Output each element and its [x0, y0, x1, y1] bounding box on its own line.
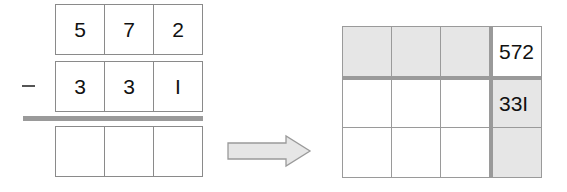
result-digit-ones [153, 126, 203, 177]
grid-divider-vertical [489, 26, 493, 178]
subtrahend-digit-tens: 3 [104, 61, 154, 112]
minuend-digit-tens: 7 [104, 4, 154, 55]
subtrahend-label-cell: 33I [492, 79, 542, 128]
grid-cell-r1c2 [391, 26, 441, 77]
grid-cell-r3c4 [492, 127, 542, 178]
result-digit-tens [104, 126, 154, 177]
grid-cell-r2c3 [440, 79, 490, 128]
grid-cell-r3c2 [391, 127, 441, 178]
result-digit-hundreds [55, 126, 105, 177]
grid-cell-r2c2 [391, 79, 441, 128]
subtrahend-digit-hundreds: 3 [55, 61, 105, 112]
grid-cell-r3c3 [440, 127, 490, 178]
grid-cell-r1c3 [440, 26, 490, 77]
minuend-label-cell: 572 [492, 26, 542, 77]
grid-cell-r1c1 [342, 26, 392, 77]
minuend-digit-hundreds: 5 [55, 4, 105, 55]
grid-cell-r3c1 [342, 127, 392, 178]
minus-sign [22, 85, 35, 87]
grid-cell-r2c1 [342, 79, 392, 128]
grid-divider-horizontal [342, 76, 542, 80]
minuend-digit-ones: 2 [153, 4, 203, 55]
subtrahend-digit-ones: I [153, 61, 203, 112]
right-arrow-icon [226, 134, 316, 168]
result-line [23, 116, 203, 121]
